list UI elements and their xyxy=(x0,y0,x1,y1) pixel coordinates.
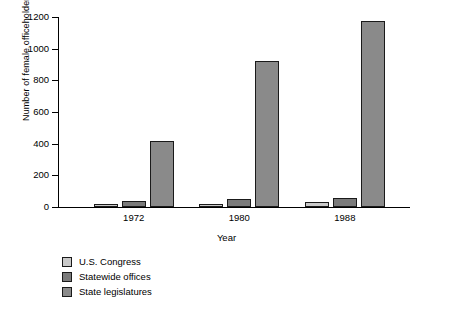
bar xyxy=(305,202,329,207)
bar xyxy=(255,61,279,207)
bar-group: 1988 xyxy=(305,17,385,207)
x-tick-label: 1988 xyxy=(334,212,355,223)
legend-item: U.S. Congress xyxy=(62,255,152,269)
bar xyxy=(122,201,146,207)
y-tick-label: 600 xyxy=(33,107,49,117)
legend-label: U.S. Congress xyxy=(79,257,141,267)
legend-label: State legislatures xyxy=(79,287,152,297)
x-tick-label: 1980 xyxy=(229,212,250,223)
y-tick-mark xyxy=(52,144,58,145)
bar-group: 1972 xyxy=(94,17,174,207)
y-tick-mark xyxy=(52,112,58,113)
y-tick-mark xyxy=(52,80,58,81)
x-axis-title: Year xyxy=(0,232,453,243)
bar xyxy=(361,21,385,207)
y-tick-mark xyxy=(52,49,58,50)
bar-chart: Number of female officeholders 020040060… xyxy=(0,0,453,313)
y-tick-label: 800 xyxy=(33,76,49,86)
y-axis-line xyxy=(58,17,59,207)
bar xyxy=(150,141,174,208)
y-tick-label: 1200 xyxy=(28,12,49,22)
legend-label: Statewide offices xyxy=(79,272,151,282)
legend-item: State legislatures xyxy=(62,285,152,299)
bar-group: 1980 xyxy=(199,17,279,207)
y-tick-label: 400 xyxy=(33,139,49,149)
y-tick-label: 0 xyxy=(44,202,49,212)
legend-item: Statewide offices xyxy=(62,270,152,284)
chart-legend: U.S. CongressStatewide officesState legi… xyxy=(62,255,152,300)
plot-area: 020040060080010001200 197219801988 xyxy=(58,17,410,207)
bar xyxy=(227,199,251,207)
legend-swatch xyxy=(62,272,72,282)
y-tick-label: 200 xyxy=(33,171,49,181)
y-tick-mark xyxy=(52,17,58,18)
legend-swatch xyxy=(62,257,72,267)
y-tick-mark xyxy=(52,207,58,208)
legend-swatch xyxy=(62,287,72,297)
x-axis-line xyxy=(58,207,410,208)
bar xyxy=(199,204,223,207)
bar xyxy=(94,204,118,207)
y-tick-label: 1000 xyxy=(28,44,49,54)
y-tick-mark xyxy=(52,175,58,176)
x-tick-label: 1972 xyxy=(123,212,144,223)
bar xyxy=(333,198,357,207)
